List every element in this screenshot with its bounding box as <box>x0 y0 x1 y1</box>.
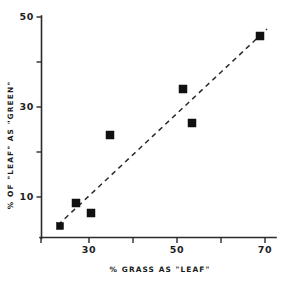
x-tick-label-30: 30 <box>82 244 96 255</box>
x-tick-label-70: 70 <box>258 244 272 255</box>
x-axis-tick-labels: 30 50 70 <box>82 244 272 255</box>
data-point-marker <box>188 119 196 127</box>
y-axis-title: % OF "LEAF" AS "GREEN" <box>6 81 15 209</box>
y-tick-label-50: 50 <box>20 11 34 22</box>
y-tick-label-10: 10 <box>20 191 34 202</box>
data-point-marker <box>256 32 264 40</box>
x-tick-label-50: 50 <box>170 244 184 255</box>
trend-line-group <box>58 29 267 225</box>
y-axis-tick-labels: 50 30 10 <box>20 11 34 202</box>
data-point-marker <box>106 131 114 139</box>
data-point-marker <box>72 199 80 207</box>
chart-canvas: 50 30 10 30 50 70 <box>0 0 282 283</box>
data-point-marker <box>57 223 64 230</box>
x-axis-ticks <box>41 238 265 244</box>
scatter-plot-figure: 50 30 10 30 50 70 <box>0 0 282 283</box>
data-point-marker <box>179 85 187 93</box>
regression-trend-line <box>58 29 267 225</box>
x-axis-title: % GRASS AS "LEAF" <box>110 265 211 274</box>
data-point-marker <box>87 209 95 217</box>
y-tick-label-30: 30 <box>20 101 34 112</box>
